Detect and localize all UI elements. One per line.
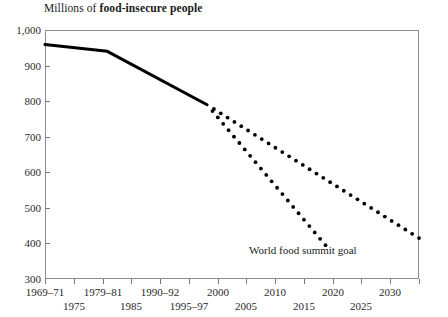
y-axis-tick-mark [45, 66, 50, 67]
x-axis-tick-label: 2015 [293, 301, 315, 312]
x-axis-tick-label: 1995–97 [170, 301, 209, 312]
x-axis-tick-label: 2000 [207, 287, 229, 298]
y-axis-tick-label: 500 [1, 203, 41, 214]
world-food-summit-goal-label: World food summit goal [249, 245, 357, 256]
y-axis-tick-label: 900 [1, 61, 41, 72]
x-axis-tick-label: 2030 [379, 287, 401, 298]
plot-area [45, 30, 419, 279]
x-axis-tick-mark [160, 279, 161, 284]
y-axis-tick-label: 300 [1, 274, 41, 285]
y-axis-tick-label: 1,000 [1, 25, 41, 36]
x-axis-tick-label: 2020 [322, 287, 344, 298]
chart-title: Millions of food-insecure people [44, 2, 203, 14]
x-axis-tick-label: 1985 [120, 301, 142, 312]
x-axis-tick-mark [103, 279, 104, 284]
x-axis-tick-mark [275, 279, 276, 284]
y-axis-tick-label: 400 [1, 238, 41, 249]
chart-title-normal: Millions of [44, 2, 100, 14]
x-axis-tick-label: 1990–92 [141, 287, 180, 298]
y-axis-tick-label: 700 [1, 132, 41, 143]
x-axis-tick-label: 2025 [350, 301, 372, 312]
y-axis-tick-mark [45, 172, 50, 173]
x-axis-tick-mark [131, 279, 132, 284]
x-axis-tick-mark [189, 279, 190, 284]
y-axis: 1,000900800700600500400300 [0, 30, 41, 279]
x-axis-tick-label: 2005 [235, 301, 257, 312]
x-axis-tick-mark [361, 279, 362, 284]
x-axis-tick-label: 1975 [63, 301, 85, 312]
x-axis-tick-mark [45, 279, 46, 284]
y-axis-tick-mark [45, 137, 50, 138]
x-axis-tick-mark [390, 279, 391, 284]
y-axis-tick-mark [45, 208, 50, 209]
x-axis-tick-label: 1969–71 [26, 287, 65, 298]
y-axis-tick-mark [45, 101, 50, 102]
x-axis-tick-mark [246, 279, 247, 284]
x-axis-tick-mark [218, 279, 219, 284]
x-axis-tick-label: 1979–81 [84, 287, 123, 298]
chart-title-bold: food-insecure people [100, 2, 203, 14]
x-axis-tick-mark [74, 279, 75, 284]
y-axis-tick-mark [45, 243, 50, 244]
x-axis-tick-mark [304, 279, 305, 284]
x-axis-tick-mark [333, 279, 334, 284]
y-axis-tick-label: 600 [1, 167, 41, 178]
chart-container: Millions of food-insecure people 1,00090… [0, 0, 448, 317]
y-axis-tick-label: 800 [1, 96, 41, 107]
x-axis-tick-label: 2010 [264, 287, 286, 298]
x-axis-tick-mark [419, 279, 420, 284]
